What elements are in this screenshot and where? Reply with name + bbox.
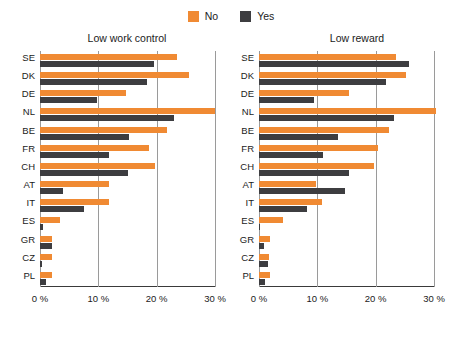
bar-row: NL xyxy=(40,105,215,123)
chart-figure: No Yes Low work control SEDKDENLBEFRCHAT… xyxy=(0,0,462,337)
bar-no xyxy=(259,217,283,223)
grid-line xyxy=(434,51,435,287)
grid-line xyxy=(215,51,216,287)
bar-row: FR xyxy=(40,142,215,160)
bar-no xyxy=(259,236,270,242)
bar-no xyxy=(40,199,109,205)
category-label: NL xyxy=(242,106,254,118)
bar-row: CH xyxy=(40,160,215,178)
category-label: IT xyxy=(246,197,254,209)
bar-yes xyxy=(259,115,394,121)
bar-yes xyxy=(259,279,265,285)
panel-low-work-control: Low work control SEDKDENLBEFRCHATITESGRC… xyxy=(2,32,230,328)
bar-row: PL xyxy=(40,269,215,287)
panel-title-right: Low reward xyxy=(232,32,460,44)
chart-legend: No Yes xyxy=(0,11,462,22)
plot-area-right: SEDKDENLBEFRCHATITESGRCZPL 0 %10 %20 %30… xyxy=(259,51,434,287)
bar-yes xyxy=(259,261,268,267)
category-label: IT xyxy=(27,197,35,209)
category-label: BE xyxy=(241,125,254,137)
bar-row: DK xyxy=(40,69,215,87)
x-tick-label: 20 % xyxy=(146,293,168,304)
bar-row: ES xyxy=(40,214,215,232)
bar-row: DE xyxy=(259,87,434,105)
x-tick-label: 20 % xyxy=(365,293,387,304)
bar-row: GR xyxy=(40,233,215,251)
bar-row: FR xyxy=(259,142,434,160)
panel-low-reward: Low reward SEDKDENLBEFRCHATITESGRCZPL 0 … xyxy=(232,32,460,328)
bar-yes xyxy=(40,188,63,194)
bar-no xyxy=(259,145,378,151)
bar-row: NL xyxy=(259,105,434,123)
legend-swatch-no xyxy=(188,11,199,22)
bar-yes xyxy=(259,97,314,103)
category-label: ES xyxy=(22,215,35,227)
bar-no xyxy=(259,272,270,278)
legend-label-no: No xyxy=(205,11,218,22)
bar-no xyxy=(259,199,322,205)
legend-label-yes: Yes xyxy=(257,11,274,22)
bar-no xyxy=(40,272,52,278)
plot-area-left: SEDKDENLBEFRCHATITESGRCZPL 0 %10 %20 %30… xyxy=(40,51,215,287)
bar-yes xyxy=(40,206,84,212)
bar-no xyxy=(259,181,316,187)
category-label: DE xyxy=(22,88,35,100)
legend-entry-yes: Yes xyxy=(240,11,274,22)
bar-row: CZ xyxy=(40,251,215,269)
bar-yes xyxy=(40,134,129,140)
bar-no xyxy=(40,108,215,114)
x-tick-label: 0 % xyxy=(32,293,48,304)
x-tick-label: 0 % xyxy=(251,293,267,304)
bar-rows-left: SEDKDENLBEFRCHATITESGRCZPL xyxy=(40,51,215,287)
panel-title-left: Low work control xyxy=(2,32,230,44)
legend-entry-no: No xyxy=(188,11,218,22)
bar-yes xyxy=(40,152,109,158)
bar-row: DK xyxy=(259,69,434,87)
bar-no xyxy=(40,217,60,223)
bar-rows-right: SEDKDENLBEFRCHATITESGRCZPL xyxy=(259,51,434,287)
bar-row: CZ xyxy=(259,251,434,269)
category-label: CH xyxy=(240,161,254,173)
category-label: PL xyxy=(23,270,35,282)
bar-row: CH xyxy=(259,160,434,178)
bar-yes xyxy=(259,188,345,194)
bar-no xyxy=(40,254,52,260)
bar-no xyxy=(40,127,167,133)
x-tick-label: 30 % xyxy=(204,293,226,304)
category-label: FR xyxy=(241,143,254,155)
bar-yes xyxy=(40,97,97,103)
bar-row: PL xyxy=(259,269,434,287)
bar-no xyxy=(40,90,126,96)
category-label: FR xyxy=(22,143,35,155)
bar-no xyxy=(259,90,349,96)
legend-swatch-yes xyxy=(240,11,251,22)
bar-yes xyxy=(259,134,338,140)
category-label: SE xyxy=(241,52,254,64)
bar-row: ES xyxy=(259,214,434,232)
bar-row: IT xyxy=(259,196,434,214)
bar-no xyxy=(40,72,189,78)
bar-no xyxy=(259,54,396,60)
bar-yes xyxy=(259,243,264,249)
bar-row: BE xyxy=(40,124,215,142)
bar-no xyxy=(40,163,155,169)
bar-row: AT xyxy=(40,178,215,196)
category-label: ES xyxy=(241,215,254,227)
x-tick-label: 30 % xyxy=(423,293,445,304)
bar-row: BE xyxy=(259,124,434,142)
category-label: GR xyxy=(21,234,35,246)
bar-yes xyxy=(40,279,46,285)
bar-no xyxy=(259,163,374,169)
bar-no xyxy=(259,127,389,133)
category-label: CZ xyxy=(241,252,254,264)
bar-no xyxy=(259,108,436,114)
category-label: CZ xyxy=(22,252,35,264)
x-tick-labels-left: 0 %10 %20 %30 % xyxy=(40,287,215,307)
category-label: SE xyxy=(22,52,35,64)
category-label: NL xyxy=(23,106,35,118)
bar-no xyxy=(259,254,269,260)
bar-yes xyxy=(40,115,174,121)
category-label: DK xyxy=(241,70,254,82)
bar-yes xyxy=(259,170,349,176)
category-label: DK xyxy=(22,70,35,82)
